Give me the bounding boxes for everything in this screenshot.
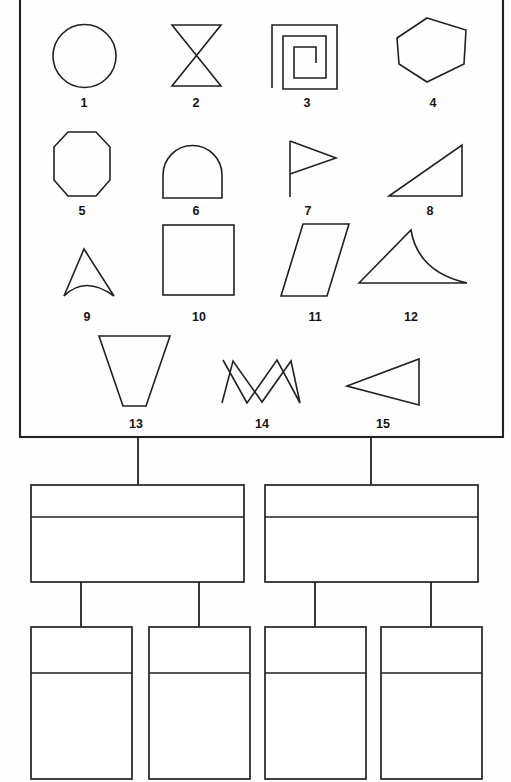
shape-caption-11: 11 [308, 310, 321, 324]
tree-node-level2-left[interactable] [31, 485, 244, 582]
tree-node-level3-2[interactable] [149, 627, 250, 779]
shape-panel-border [20, 0, 503, 437]
shape-caption-1: 1 [81, 96, 88, 110]
tree-node-level3-2-frame[interactable] [149, 627, 250, 779]
shape-caption-12: 12 [404, 310, 418, 324]
figure-canvas: 1 2 3 4 5 6 [0, 0, 511, 782]
tree-node-level3-3[interactable] [265, 627, 366, 779]
shape-caption-10: 10 [192, 310, 206, 324]
tree-node-level3-1-frame[interactable] [31, 627, 132, 779]
figure-root: 1 2 3 4 5 6 [0, 0, 511, 782]
shape-caption-14: 14 [255, 417, 269, 431]
shape-legend-panel: 1 2 3 4 5 6 [20, 0, 503, 437]
shape-caption-13: 13 [129, 417, 143, 431]
tree-node-level3-1[interactable] [31, 627, 132, 779]
tree-node-level2-right[interactable] [265, 485, 478, 582]
tree-level-3 [31, 627, 482, 779]
shape-caption-6: 6 [193, 204, 200, 218]
tree-node-level3-4[interactable] [381, 627, 482, 779]
shape-caption-2: 2 [193, 96, 200, 110]
tree-node-level3-3-frame[interactable] [265, 627, 366, 779]
tree-node-level3-4-frame[interactable] [381, 627, 482, 779]
shape-caption-7: 7 [305, 204, 312, 218]
shape-caption-4: 4 [430, 96, 437, 110]
tree-node-level2-left-frame[interactable] [31, 485, 244, 582]
tree-level-2 [31, 485, 478, 582]
shape-caption-9: 9 [84, 310, 91, 324]
shape-caption-5: 5 [79, 204, 86, 218]
shape-caption-3: 3 [304, 96, 311, 110]
tree-node-level2-right-frame[interactable] [265, 485, 478, 582]
shape-caption-8: 8 [427, 204, 434, 218]
shape-caption-15: 15 [376, 417, 390, 431]
